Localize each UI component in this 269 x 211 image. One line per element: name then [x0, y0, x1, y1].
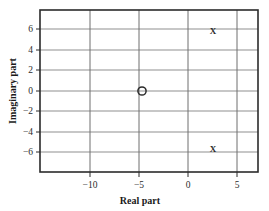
y-axis-tick-labels: 6 4 2 0 −2 −4 −6: [23, 24, 33, 157]
pole-marker-upper: X: [210, 26, 217, 36]
x-tick-label-0: 0: [186, 180, 191, 190]
pole-zero-plot: 6 4 2 0 −2 −4 −6 −10 −5 0 5 Real part Im…: [0, 0, 269, 211]
x-tick-label-neg10: −10: [83, 180, 98, 190]
y-tick-label-6: 6: [28, 24, 33, 34]
x-tick-label-5: 5: [235, 180, 240, 190]
x-tick-label-neg5: −5: [134, 180, 144, 190]
x-axis-title: Real part: [120, 195, 161, 206]
y-tick-label-neg2: −2: [23, 106, 33, 116]
pole-marker-lower: X: [210, 144, 217, 154]
y-tick-label-2: 2: [28, 65, 33, 75]
y-tick-label-4: 4: [28, 45, 33, 55]
plot-canvas: 6 4 2 0 −2 −4 −6 −10 −5 0 5 Real part Im…: [0, 0, 269, 211]
y-tick-label-neg4: −4: [23, 127, 33, 137]
y-tick-label-0: 0: [28, 86, 33, 96]
x-axis-tick-labels: −10 −5 0 5: [83, 180, 240, 190]
y-axis-title: Imaginary part: [7, 57, 18, 124]
y-tick-label-neg6: −6: [23, 147, 33, 157]
